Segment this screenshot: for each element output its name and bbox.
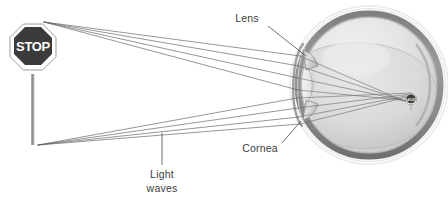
label-lens-group: Lens xyxy=(235,12,306,56)
label-light-waves-group: Light waves xyxy=(146,133,178,194)
label-cornea-group: Cornea xyxy=(242,121,301,154)
stop-sign-post xyxy=(31,74,34,145)
light-waves-label-line2: waves xyxy=(146,182,178,194)
retinal-image-label: STOP xyxy=(407,97,415,101)
stop-sign-label: STOP xyxy=(16,39,51,54)
ray-top-4 xyxy=(44,22,298,90)
ray-top-2 xyxy=(44,22,299,66)
eyeball xyxy=(290,6,448,164)
lens-label: Lens xyxy=(235,12,259,24)
lens-leader-line xyxy=(268,26,306,56)
cornea-leader-line xyxy=(282,121,301,143)
ray-top-3 xyxy=(44,22,298,78)
ray-top-1 xyxy=(44,22,300,56)
stop-sign: STOP xyxy=(10,24,56,145)
light-waves-label-line1: Light xyxy=(150,168,174,180)
eye-optics-diagram: STOP STOP Lens Cornea Light waves xyxy=(0,0,448,200)
cornea-label: Cornea xyxy=(242,142,278,154)
ray-bottom-2 xyxy=(38,108,298,145)
